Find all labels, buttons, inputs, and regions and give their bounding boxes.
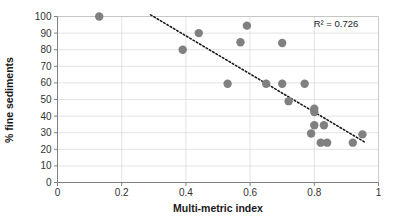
y-tick-label: 20	[40, 144, 52, 155]
y-tick-label: 40	[40, 111, 52, 122]
data-point	[278, 39, 286, 47]
chart-canvas: 00.20.40.60.81 0102030405060708090100 % …	[0, 0, 396, 220]
x-axis-title: Multi-metric index	[173, 202, 263, 214]
y-tick-label: 30	[40, 127, 52, 138]
y-tick-label: 0	[46, 177, 52, 188]
data-point	[278, 80, 286, 88]
data-point	[284, 97, 292, 105]
data-point	[307, 129, 315, 137]
data-point	[223, 80, 231, 88]
x-tick-label: 0.8	[307, 187, 321, 198]
y-tick-label: 80	[40, 44, 52, 55]
y-tick-label: 90	[40, 28, 52, 39]
data-point	[195, 29, 203, 37]
y-tick-label: 70	[40, 61, 52, 72]
scatter-chart-figure: 00.20.40.60.81 0102030405060708090100 % …	[0, 0, 396, 220]
y-tick-label: 60	[40, 77, 52, 88]
y-axis-title: % fine sediments	[3, 57, 15, 143]
x-axis-ticks: 00.20.40.60.81	[55, 183, 382, 198]
x-tick-label: 0.2	[115, 187, 129, 198]
data-point	[358, 130, 366, 138]
trendline	[151, 15, 366, 143]
y-tick-label: 50	[40, 94, 52, 105]
trendline-segment	[151, 15, 366, 143]
data-point	[323, 138, 331, 146]
data-point	[243, 21, 251, 29]
x-tick-label: 1	[376, 187, 382, 198]
data-point	[320, 121, 328, 129]
x-tick-label: 0.4	[179, 187, 193, 198]
data-point	[178, 46, 186, 54]
x-tick-label: 0.6	[243, 187, 257, 198]
r-squared-annotation: R² = 0.726	[314, 18, 359, 29]
data-point	[95, 12, 103, 20]
data-point	[300, 80, 308, 88]
y-tick-label: 100	[35, 11, 52, 22]
y-tick-label: 10	[40, 160, 52, 171]
gridlines-group	[58, 17, 379, 183]
data-points-group	[95, 12, 367, 147]
data-point	[310, 108, 318, 116]
data-point	[349, 138, 357, 146]
x-tick-label: 0	[55, 187, 61, 198]
y-axis-ticks: 0102030405060708090100	[35, 11, 58, 188]
data-point	[262, 80, 270, 88]
data-point	[236, 38, 244, 46]
data-point	[310, 121, 318, 129]
